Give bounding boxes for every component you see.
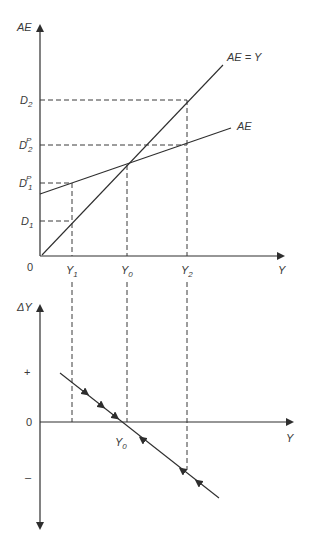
- keynesian-cross-diagram: AE 0 Y AE = Y AE D2 DP 2 DP 1 D1 Y1 Y0 Y…: [0, 0, 309, 544]
- y0-label: Y0: [121, 264, 133, 279]
- zero-label: 0: [26, 416, 32, 428]
- d2p-sub: 2: [27, 145, 33, 154]
- top-panel: AE 0 Y AE = Y AE D2 DP 2 DP 1 D1 Y1 Y0 Y…: [16, 21, 286, 279]
- minus-label: –: [25, 471, 32, 483]
- delta-y-line: [60, 373, 219, 498]
- d1-label: D1: [21, 215, 33, 230]
- flow-arrow-icon: [142, 439, 150, 445]
- equilibrium-y0-label: Y0: [115, 436, 127, 451]
- forty-five-degree-line: [42, 65, 223, 255]
- y2-label: Y2: [181, 264, 193, 279]
- d1p-sub: 1: [28, 183, 32, 192]
- ae-line: [40, 128, 231, 194]
- plus-label: +: [24, 366, 30, 378]
- origin-label: 0: [27, 261, 33, 273]
- y-axis-label-top: Y: [278, 264, 286, 276]
- ae-axis-label: AE: [16, 21, 32, 33]
- bottom-panel: ΔY + 0 – Y Y0: [16, 301, 294, 528]
- delta-y-axis-label: ΔY: [16, 301, 32, 313]
- forty-five-line-label: AE = Y: [226, 51, 262, 63]
- d2-label: D2: [20, 94, 33, 109]
- flow-arrow-icon: [182, 470, 190, 476]
- y-axis-label-bottom: Y: [286, 432, 294, 444]
- ae-line-label: AE: [236, 120, 252, 132]
- y1-label: Y1: [66, 264, 78, 279]
